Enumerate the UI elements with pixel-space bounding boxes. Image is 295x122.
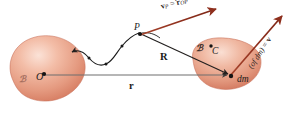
figure-canvas	[0, 0, 295, 122]
point-O-marker	[42, 72, 46, 76]
trajectory-path	[72, 33, 160, 66]
kinematics-figure: O ℬ P ℬ C dm R r vP = ̇rOP (of dm) = v	[0, 0, 295, 122]
point-dm-marker	[229, 74, 233, 78]
point-P-marker	[138, 32, 142, 36]
point-C-marker	[209, 44, 212, 47]
reference-body-blob	[10, 36, 85, 101]
velocity-arrow-P	[140, 9, 216, 35]
rigid-body-blob	[193, 38, 262, 90]
